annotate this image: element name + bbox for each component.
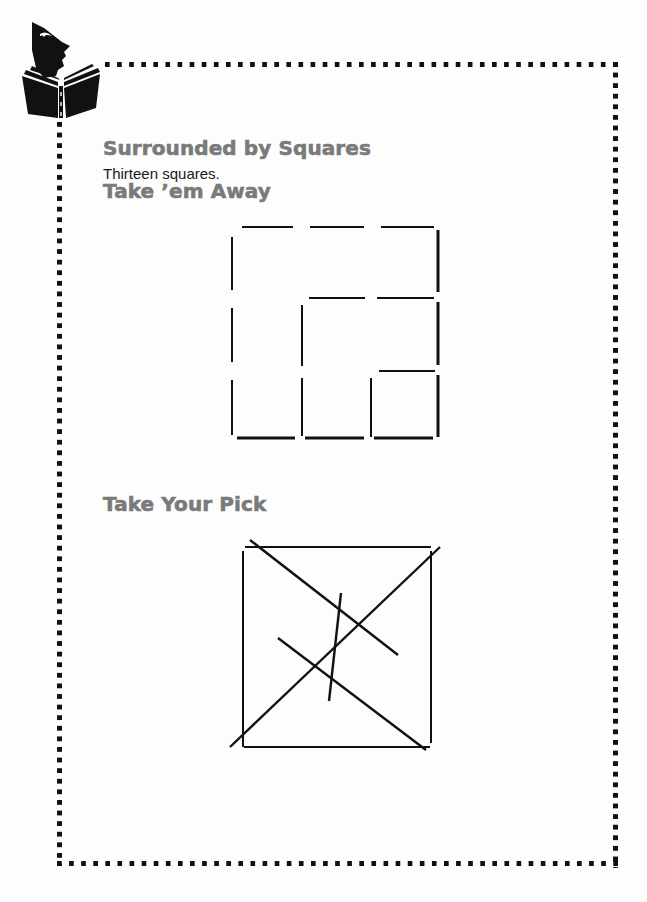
crossed-square-figure: [0, 0, 647, 902]
